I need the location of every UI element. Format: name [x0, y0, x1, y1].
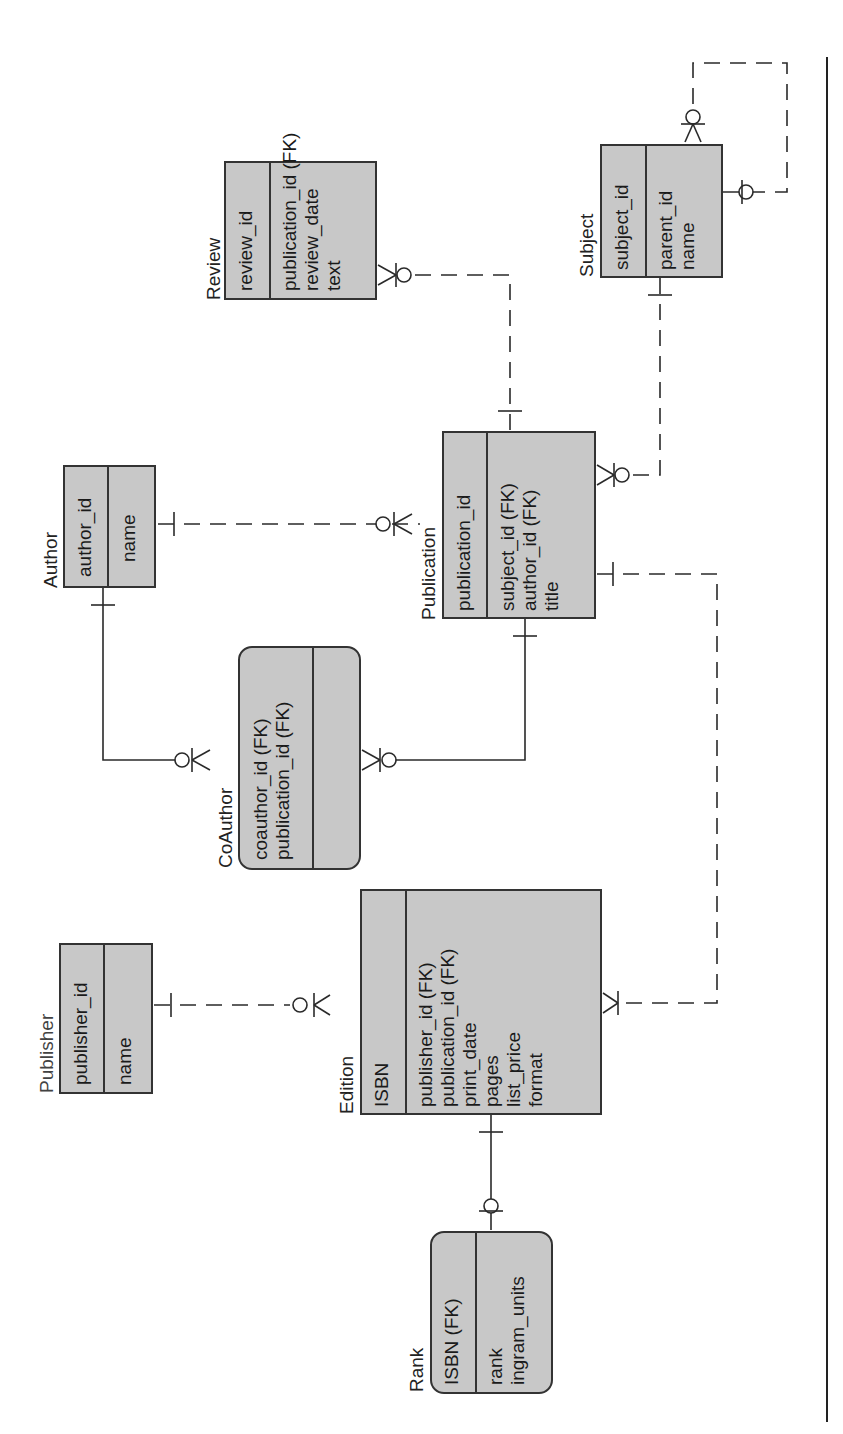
- rel-author-coauthor: [91, 588, 210, 772]
- attribute-field: name: [114, 1037, 136, 1085]
- entity-title-subject: Subject: [576, 214, 598, 277]
- key-section: review_id: [226, 163, 271, 298]
- entity-title-coauthor: CoAuthor: [215, 788, 237, 868]
- attribute-field: print_date: [459, 949, 481, 1107]
- attribute-field: publisher_id (FK): [415, 949, 437, 1107]
- entity-author[interactable]: author_id name: [63, 465, 156, 588]
- rel-publication-review: [378, 263, 522, 430]
- entity-title-publication: Publication: [418, 527, 440, 620]
- entity-coauthor[interactable]: coauthor_id (FK) publication_id (FK): [238, 646, 361, 870]
- attribute-field: publication_id (FK): [279, 133, 301, 291]
- rel-author-publication: [158, 512, 420, 536]
- attribute-field: pages: [481, 949, 503, 1107]
- entity-title-rank: Rank: [406, 1348, 428, 1392]
- key-field: publication_id (FK): [272, 702, 294, 860]
- attribute-field: name: [118, 514, 140, 562]
- key-field: publisher_id: [70, 983, 92, 1085]
- attribute-field: title: [541, 483, 563, 611]
- key-section: ISBN (FK): [432, 1233, 477, 1392]
- attribute-list: parent_id name: [655, 191, 699, 270]
- key-field: subject_id: [611, 184, 633, 270]
- entity-title-author: Author: [40, 532, 62, 588]
- attribute-field: publication_id (FK): [437, 949, 459, 1107]
- entity-title-publisher: Publisher: [36, 1014, 58, 1093]
- attribute-field: parent_id: [655, 191, 677, 270]
- attribute-field: list_price: [503, 949, 525, 1107]
- key-field: review_id: [235, 211, 257, 291]
- attribute-list: publication_id (FK) review_date text: [279, 133, 345, 291]
- attribute-field: rank: [485, 1276, 507, 1385]
- attribute-list: publisher_id (FK) publication_id (FK) pr…: [415, 949, 547, 1107]
- attribute-list: name: [114, 1037, 136, 1085]
- key-section: publisher_id: [61, 945, 105, 1092]
- key-field: ISBN: [371, 1063, 393, 1107]
- entity-title-edition: Edition: [336, 1056, 358, 1114]
- entity-publisher[interactable]: publisher_id name: [59, 943, 153, 1094]
- rel-publisher-edition: [154, 993, 330, 1017]
- attribute-field: format: [525, 949, 547, 1107]
- attribute-field: subject_id (FK): [497, 483, 519, 611]
- attribute-field: text: [323, 133, 345, 291]
- entity-subject[interactable]: subject_id parent_id name: [600, 144, 723, 278]
- key-field: publication_id: [453, 495, 475, 611]
- entity-edition[interactable]: ISBN publisher_id (FK) publication_id (F…: [360, 889, 602, 1115]
- attribute-list: name: [118, 514, 140, 562]
- attribute-field: author_id (FK): [519, 483, 541, 611]
- entity-title-review: Review: [203, 238, 225, 300]
- rel-publication-edition: [597, 562, 717, 1015]
- entity-review[interactable]: review_id publication_id (FK) review_dat…: [224, 161, 377, 300]
- key-section: ISBN: [362, 891, 407, 1113]
- key-section: coauthor_id (FK) publication_id (FK): [240, 648, 314, 868]
- key-field: ISBN (FK): [441, 1298, 463, 1385]
- key-field: author_id: [74, 498, 96, 577]
- key-section: author_id: [65, 467, 109, 586]
- entity-rank[interactable]: ISBN (FK) rank ingram_units: [430, 1231, 553, 1394]
- attribute-field: name: [677, 191, 699, 270]
- rel-publication-coauthor: [362, 619, 537, 772]
- key-section: publication_id: [444, 433, 488, 617]
- attribute-field: review_date: [301, 133, 323, 291]
- page-border-line: [826, 57, 828, 1422]
- attribute-field: ingram_units: [507, 1276, 529, 1385]
- entity-publication[interactable]: publication_id subject_id (FK) author_id…: [442, 431, 596, 619]
- key-field: coauthor_id (FK): [250, 702, 272, 860]
- attribute-list: subject_id (FK) author_id (FK) title: [497, 483, 563, 611]
- attribute-list: rank ingram_units: [485, 1276, 529, 1385]
- rel-subject-publication: [597, 278, 672, 487]
- key-section: subject_id: [602, 146, 647, 276]
- er-diagram-canvas: Review review_id publication_id (FK) rev…: [0, 0, 843, 1434]
- rel-edition-rank: [479, 1115, 503, 1230]
